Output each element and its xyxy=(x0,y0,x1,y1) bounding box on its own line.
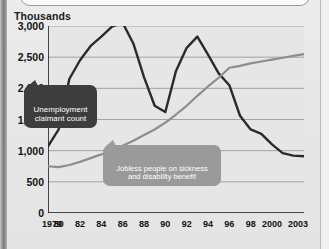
callout-label-series1: Unemployment claimant count xyxy=(34,105,88,123)
y-tick-label: 500 xyxy=(26,176,44,188)
callout-sickness-disability-benefit: Jobless people on sickness and disabilit… xyxy=(103,145,221,186)
x-tick-label: 98 xyxy=(246,219,256,229)
callout-label-series2: Jobless people on sickness and disabilit… xyxy=(116,164,207,181)
scan-right-edge-border xyxy=(320,0,329,249)
y-tick-label: 1,000 xyxy=(18,145,44,157)
y-tick-label: 3,000 xyxy=(18,20,44,32)
top-rounded-panel-fragment xyxy=(20,0,310,6)
callout-tail-dark xyxy=(28,80,38,86)
x-tick-label: 92 xyxy=(182,219,192,229)
x-tick-label: 2003 xyxy=(288,219,308,229)
y-tick-label: 2,500 xyxy=(18,51,44,63)
x-tick-label: 96 xyxy=(224,219,234,229)
chart-screenshot: Thousands 3,0002,5002,0001,5001,0005000 … xyxy=(0,0,329,249)
x-tick-label: 84 xyxy=(96,219,106,229)
x-axis-tick-labels: 19798082848688909294969820002003 xyxy=(48,219,304,235)
x-tick-label: 2000 xyxy=(262,219,282,229)
x-tick-label: 94 xyxy=(203,219,213,229)
x-tick-label: 80 xyxy=(54,219,64,229)
callout-tail-grey xyxy=(106,140,116,146)
x-tick-label: 82 xyxy=(75,219,85,229)
callout-unemployment-claimant-count: Unemployment claimant count xyxy=(24,85,97,128)
y-tick-label: 0 xyxy=(38,207,44,219)
x-tick-label: 90 xyxy=(160,219,170,229)
x-tick-label: 86 xyxy=(118,219,128,229)
x-tick-label: 88 xyxy=(139,219,149,229)
